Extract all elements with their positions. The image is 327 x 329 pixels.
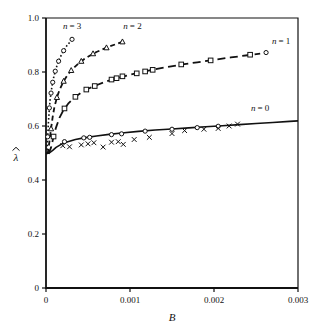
series-label-n1: n= 1 (272, 36, 290, 46)
data-point-square (62, 106, 67, 111)
data-point-triangle (90, 51, 95, 56)
y-tick-label: 0.8 (28, 67, 40, 77)
chart-canvas: 00.0010.0020.003 00.20.40.60.81.0 n= 0n=… (0, 0, 327, 329)
x-axis-title: B (169, 311, 176, 323)
data-point-square (92, 84, 97, 89)
data-point-square (109, 77, 114, 82)
data-point-cross (147, 135, 152, 140)
data-point-cross (109, 140, 114, 145)
y-tick-label: 0.4 (28, 175, 40, 185)
series-label-n0: n= 0 (251, 103, 270, 113)
data-point-cross (86, 141, 91, 146)
data-point-triangle (120, 39, 125, 44)
data-point-square (150, 68, 155, 73)
data-point-square (208, 58, 213, 63)
data-point-circle (170, 127, 174, 131)
data-point-circle (46, 135, 50, 139)
data-point-cross (67, 144, 72, 149)
data-point-circle (57, 59, 61, 63)
data-point-cross (132, 137, 137, 142)
data-point-square (248, 52, 253, 57)
data-point-circle (49, 91, 53, 95)
data-point-square (143, 69, 148, 74)
data-point-circle (109, 133, 113, 137)
data-point-cross (116, 139, 121, 144)
data-point-cross (101, 145, 106, 150)
series-annotations: n= 0n= 1n= 2n= 3 (63, 21, 290, 113)
y-tick-label: 0.2 (28, 229, 39, 239)
data-point-circle (120, 132, 124, 136)
data-point-circle (264, 50, 268, 54)
data-point-square (120, 74, 125, 79)
data-point-cross (170, 131, 175, 136)
y-axis-title-hat (13, 147, 20, 150)
series-label-n2: n= 2 (123, 21, 141, 31)
data-point-circle (51, 80, 55, 84)
data-point-square (114, 76, 119, 81)
y-tick-labels: 00.20.40.60.81.0 (28, 13, 40, 293)
data-point-square (84, 87, 89, 92)
data-point-circle (195, 126, 199, 130)
series-label-n3: n= 3 (63, 21, 82, 31)
data-point-triangle (69, 68, 74, 73)
data-point-cross (79, 143, 84, 148)
y-tick-label: 0.6 (28, 121, 40, 131)
data-point-circle (47, 106, 51, 110)
data-point-square (179, 62, 184, 67)
data-point-circle (53, 69, 57, 73)
data-point-circle (143, 129, 147, 133)
data-point-circle (70, 37, 74, 41)
x-tick-label: 0.003 (288, 295, 309, 305)
data-point-circle (82, 136, 86, 140)
data-point-triangle (48, 126, 53, 131)
y-tick-label: 1.0 (28, 13, 40, 23)
data-point-cross (121, 142, 126, 147)
data-point-triangle (54, 95, 59, 100)
data-point-square (134, 71, 139, 76)
x-tick-labels: 00.0010.0020.003 (44, 295, 309, 305)
figure-container: 00.0010.0020.003 00.20.40.60.81.0 n= 0n=… (0, 0, 327, 329)
data-point-square (73, 95, 78, 100)
data-point-cross (91, 140, 96, 145)
x-tick-label: 0 (44, 295, 49, 305)
x-tick-label: 0.002 (204, 295, 224, 305)
data-point-square (51, 134, 56, 139)
x-tick-label: 0.001 (120, 295, 140, 305)
y-axis-title: λ (13, 151, 19, 163)
data-point-circle (62, 49, 66, 53)
y-tick-label: 0 (35, 283, 40, 293)
data-point-circle (62, 140, 66, 144)
data-point-circle (88, 135, 92, 139)
data-point-triangle (104, 45, 109, 50)
